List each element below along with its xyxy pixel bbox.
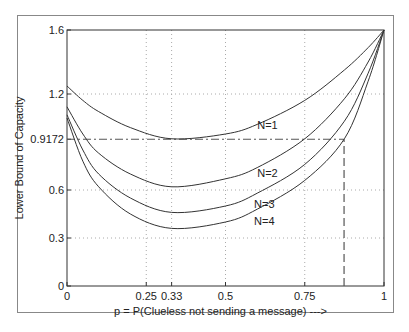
x-axis-label: p = P(Clueless not sending a message) --… <box>114 305 327 317</box>
curve-n2 <box>67 30 384 187</box>
y-tick-label: 0 <box>58 280 64 292</box>
y-tick-label: 0.9172 <box>30 133 64 145</box>
y-tick-label: 0.6 <box>49 184 64 196</box>
x-tick-label: 0.33 <box>161 290 182 302</box>
curve-label: N=4 <box>254 215 275 227</box>
curve-label: N=3 <box>254 198 275 210</box>
y-axis-label: Lower Bound of Capacity <box>13 96 25 219</box>
y-tick-label: 1.2 <box>49 88 64 100</box>
x-tick-label: 1 <box>381 290 387 302</box>
x-tick-label: 0.5 <box>218 290 233 302</box>
capacity-chart: 00.250.330.50.75100.30.60.91721.21.6N=1N… <box>0 0 409 332</box>
y-tick-label: 0.3 <box>49 232 64 244</box>
y-tick-label: 1.6 <box>49 24 64 36</box>
curve-label: N=2 <box>257 167 278 179</box>
x-tick-label: 0.25 <box>136 290 157 302</box>
x-tick-label: 0.75 <box>294 290 315 302</box>
curve-n3 <box>67 30 384 213</box>
curve-label: N=1 <box>257 119 278 131</box>
x-tick-label: 0 <box>64 290 70 302</box>
